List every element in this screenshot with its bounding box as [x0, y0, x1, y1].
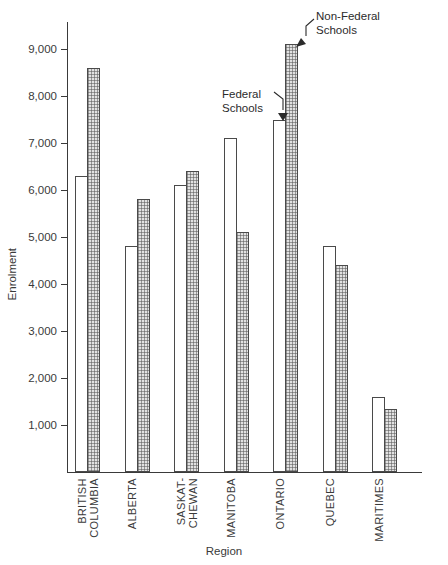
bar-group [75, 471, 101, 472]
y-axis-line [67, 22, 68, 473]
y-axis-title: Enrolment [6, 248, 18, 300]
x-axis-category-label: SASKAT- CHEWAN [175, 478, 200, 528]
x-axis-category-label: MARITIMES [373, 478, 385, 542]
y-axis-tick [61, 331, 67, 332]
y-axis-tick-label: 2,000 [0, 372, 57, 384]
y-axis-tick-label: 3,000 [0, 325, 57, 337]
y-axis-tick-label: 9,000 [0, 43, 57, 55]
bar-non-federal [236, 232, 249, 472]
x-axis-category-label: QUEBEC [324, 478, 336, 526]
y-axis-tick [61, 190, 67, 191]
y-axis-tick-label: 7,000 [0, 137, 57, 149]
y-axis-tick [61, 237, 67, 238]
x-axis-title: Region [0, 545, 448, 557]
annotation-federal-schools: Federal Schools [222, 88, 263, 116]
bar-non-federal [186, 171, 199, 472]
y-axis-tick [61, 49, 67, 50]
y-axis-tick-label: 6,000 [0, 184, 57, 196]
y-axis-tick [61, 284, 67, 285]
bar-group [174, 471, 200, 472]
bar-non-federal [384, 409, 397, 472]
x-axis-category-label: ALBERTA [126, 478, 138, 529]
y-axis-tick-label: 5,000 [0, 231, 57, 243]
x-axis-category-label: ONTARIO [274, 478, 286, 529]
bar-non-federal [285, 44, 298, 472]
x-axis-category-label: MANITOBA [225, 478, 237, 538]
y-axis-tick [61, 143, 67, 144]
bar-non-federal [87, 68, 100, 472]
bar-non-federal [137, 199, 150, 472]
bar-group [323, 471, 349, 472]
y-axis-tick-label: 1,000 [0, 419, 57, 431]
y-axis-tick [61, 425, 67, 426]
bar-group [224, 471, 250, 472]
x-axis-category-label: BRITISH COLUMBIA [76, 478, 101, 538]
bar-group [273, 471, 299, 472]
x-axis-line [67, 472, 422, 473]
bar-chart: 1,0002,0003,0004,0005,0006,0007,0008,000… [0, 0, 448, 565]
y-axis-tick-label: 8,000 [0, 90, 57, 102]
y-axis-tick [61, 378, 67, 379]
bar-group [125, 471, 151, 472]
y-axis-tick [61, 96, 67, 97]
bar-non-federal [335, 265, 348, 472]
annotation-non-federal-schools: Non-Federal Schools [316, 10, 380, 38]
bar-group [372, 471, 398, 472]
